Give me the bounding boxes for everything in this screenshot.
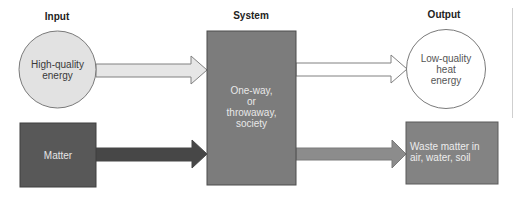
label-waste: Waste matter in air, water, soil — [410, 141, 500, 163]
label-line: One-way, — [207, 85, 296, 96]
label-system: One-way, or throwaway, society — [207, 85, 296, 129]
arrow-waste-out — [296, 140, 406, 168]
label-output-energy: Low-quality heat energy — [406, 53, 486, 86]
arrow-energy-in — [96, 56, 207, 84]
label-line: society — [207, 118, 296, 129]
label-line: air, water, soil — [410, 152, 500, 163]
label-line: or — [207, 96, 296, 107]
diagram-canvas: Input System Output High-quality energy … — [0, 0, 513, 197]
label-input-energy: High-quality energy — [19, 59, 96, 81]
label-line: energy — [406, 75, 486, 86]
header-system: System — [211, 10, 291, 21]
label-line: Waste matter in — [410, 141, 500, 152]
label-line: energy — [19, 70, 96, 81]
header-output: Output — [404, 9, 484, 20]
arrow-energy-out — [296, 55, 407, 83]
label-line: Low-quality — [406, 53, 486, 64]
label-matter: Matter — [20, 150, 96, 161]
label-line: heat — [406, 64, 486, 75]
label-line: throwaway, — [207, 107, 296, 118]
arrow-matter-in — [96, 140, 207, 168]
header-input: Input — [17, 11, 97, 22]
label-line: High-quality — [19, 59, 96, 70]
